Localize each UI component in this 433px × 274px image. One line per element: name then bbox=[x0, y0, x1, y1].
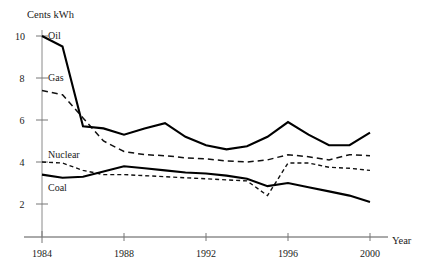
series-label-oil: Oil bbox=[48, 30, 61, 41]
y-axis-ticks: 10 8 6 4 2 bbox=[15, 31, 48, 210]
y-tick-label: 8 bbox=[20, 73, 25, 84]
x-tick-label: 1984 bbox=[32, 248, 52, 259]
x-tick-label: 1988 bbox=[114, 248, 134, 259]
chart-figure: Cents kWh Year 10 8 6 4 2 1984 1988 1 bbox=[0, 0, 433, 274]
series-label-gas: Gas bbox=[48, 72, 64, 83]
series-line-oil bbox=[42, 36, 370, 149]
line-chart-canvas: Cents kWh Year 10 8 6 4 2 1984 1988 1 bbox=[0, 0, 433, 274]
x-axis-title: Year bbox=[392, 235, 412, 246]
y-tick-label: 10 bbox=[15, 31, 25, 42]
y-axis-title: Cents kWh bbox=[27, 9, 75, 20]
x-tick-label: 1996 bbox=[278, 248, 298, 259]
series-label-coal: Coal bbox=[48, 182, 67, 193]
series-label-nuclear: Nuclear bbox=[48, 149, 80, 160]
y-tick-label: 4 bbox=[20, 157, 25, 168]
x-tick-label: 2000 bbox=[360, 248, 380, 259]
x-axis-ticks: 1984 1988 1992 1996 2000 bbox=[32, 231, 380, 259]
x-tick-label: 1992 bbox=[196, 248, 216, 259]
y-tick-label: 2 bbox=[20, 199, 25, 210]
y-tick-label: 6 bbox=[20, 115, 25, 126]
